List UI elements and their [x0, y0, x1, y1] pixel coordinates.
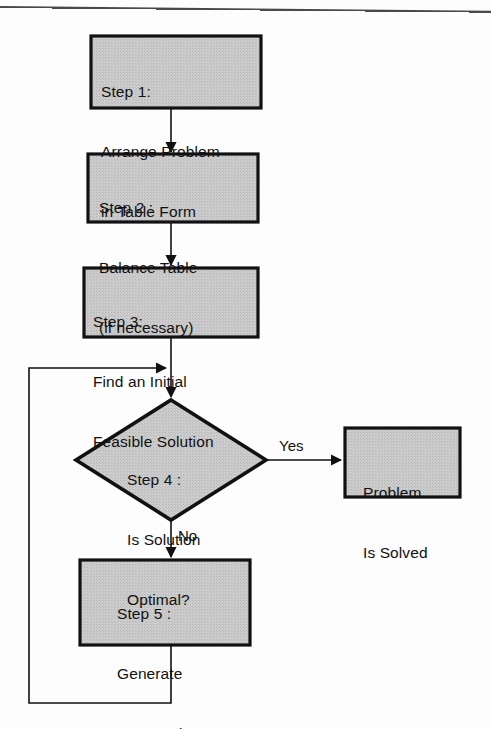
- node-step4-shape: [76, 400, 266, 520]
- node-step2-shape: [88, 154, 258, 222]
- node-step5-shape: [80, 560, 250, 645]
- node-step1-shape: [91, 36, 261, 108]
- flowchart-canvas: [0, 0, 491, 729]
- node-step3-shape: [84, 268, 258, 337]
- node-solved-shape: [345, 428, 460, 497]
- edge-label-no: No: [178, 527, 197, 544]
- flowchart-page: Step 1: Arrange Problem in Table Form St…: [0, 0, 491, 729]
- edge-label-yes: Yes: [279, 437, 303, 454]
